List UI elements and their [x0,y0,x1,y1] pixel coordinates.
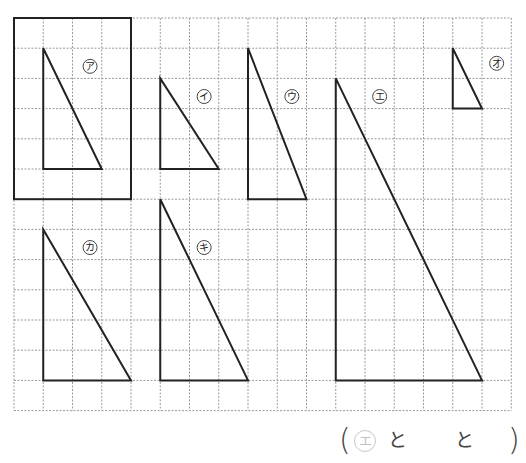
label-ka-icon: カ [83,241,97,255]
svg-text:キ: キ [199,242,209,253]
answer-blank-2[interactable] [478,420,508,450]
label-o-icon: オ [490,56,504,70]
svg-text:カ: カ [85,242,95,253]
answer-blank-1[interactable] [412,420,452,450]
svg-text:エ: エ [375,91,385,102]
svg-text:ウ: ウ [287,91,297,102]
diagram-canvas: アイウエオカキ [0,0,526,463]
dotted-grid [14,18,511,411]
svg-text:ア: ア [85,61,95,72]
connector-to-2: と [455,420,474,460]
close-paren: ) [508,420,520,460]
triangles [43,48,482,380]
label-e-icon: エ [373,90,387,104]
label-i-icon: イ [197,90,211,104]
answer-line: ( エ と と ) [0,420,526,460]
answer-filled-circle: エ [354,430,376,452]
triangle-labels: アイウエオカキ [83,56,504,254]
svg-text:オ: オ [492,58,502,69]
open-paren: ( [339,420,351,460]
connector-to-1: と [388,420,407,460]
label-a-icon: ア [83,59,97,73]
svg-text:イ: イ [199,91,209,102]
label-ki-icon: キ [197,241,211,255]
label-u-icon: ウ [285,90,299,104]
